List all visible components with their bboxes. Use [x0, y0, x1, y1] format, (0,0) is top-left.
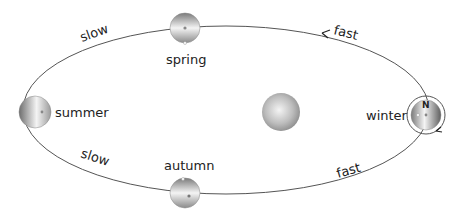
- label-summer: summer: [55, 105, 109, 120]
- direction-arrow-icon: [322, 30, 330, 38]
- earth-spring: [170, 13, 200, 45]
- label-winter: winter: [366, 108, 408, 123]
- speed-label-top-left: slow: [78, 21, 111, 45]
- speed-label-bottom-left: slow: [79, 146, 112, 169]
- speed-label-bottom-right: fast: [335, 160, 363, 181]
- orbit-diagram: spring summer autumn N winter slow slow …: [0, 0, 458, 220]
- earth-winter: N: [407, 96, 445, 134]
- earth-summer: [19, 96, 51, 128]
- label-spring: spring: [166, 52, 206, 67]
- sun: [262, 93, 300, 131]
- pole-label: N: [422, 100, 430, 110]
- label-autumn: autumn: [164, 158, 214, 173]
- earth-autumn: [170, 178, 200, 209]
